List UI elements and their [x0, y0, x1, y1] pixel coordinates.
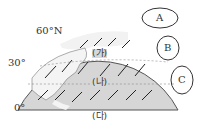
belt-label-da: (다) [92, 112, 107, 121]
cell-c-label: C [178, 75, 186, 85]
cell-a-label: A [156, 13, 163, 23]
belt-label-na: (나) [92, 78, 107, 87]
cell-b-label: B [164, 43, 171, 53]
latitude-30-label: 30° [8, 58, 26, 68]
latitude-60n-label: 60°N [36, 26, 62, 36]
land-north [60, 31, 128, 49]
latitude-0-label: 0° [14, 103, 25, 113]
belt-label-ga: (가) [92, 49, 107, 58]
